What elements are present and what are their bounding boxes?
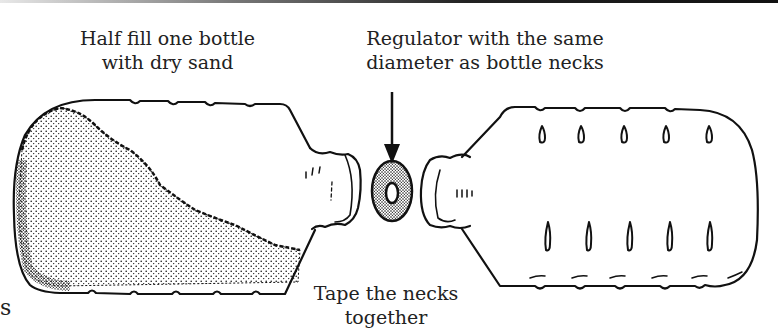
- right-empty-bottle: [421, 107, 758, 289]
- bottle-base-highlights: [530, 272, 742, 278]
- arrow-to-regulator: [384, 92, 400, 164]
- water-drips-top: [539, 126, 712, 143]
- diagram-illustration: [0, 0, 778, 332]
- regulator-washer: [372, 161, 412, 221]
- sand-fill: [19, 108, 300, 286]
- water-drips-bottom: [545, 222, 712, 250]
